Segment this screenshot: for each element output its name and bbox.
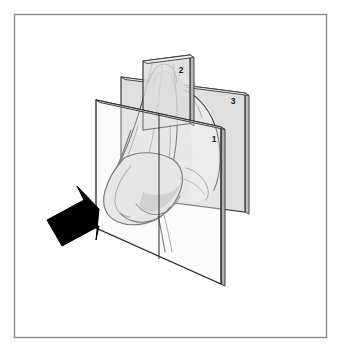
plane-2-label: 2 xyxy=(179,65,184,75)
plane-1-label: 1 xyxy=(212,134,217,144)
figure-root: 1 2 3 xyxy=(0,0,345,357)
plane-3-label: 3 xyxy=(231,96,236,106)
anatomical-diagram: 1 2 3 xyxy=(0,0,345,357)
